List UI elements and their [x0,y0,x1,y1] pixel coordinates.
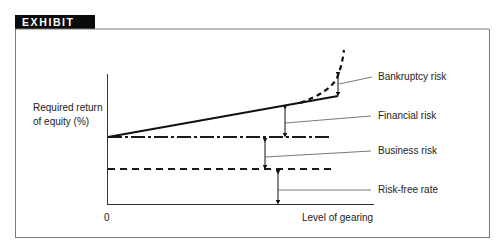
business-risk-label: Business risk [378,144,437,157]
y-axis-label-line2: of equity (%) [33,115,89,128]
exhibit-frame [15,29,490,238]
y-axis-label-line1: Required return [33,101,102,114]
risk-free-rate-label: Risk-free rate [378,183,438,196]
bankruptcy-risk-curve [300,50,344,103]
financial-risk-leader [285,116,371,123]
financial-risk-label: Financial risk [378,109,436,122]
bankruptcy-risk-label: Bankruptcy risk [378,70,446,83]
business-risk-leader [265,151,371,157]
bankruptcy-risk-leader [339,77,372,84]
x-axis-label: Level of gearing [302,211,373,224]
origin-label: 0 [104,211,110,224]
